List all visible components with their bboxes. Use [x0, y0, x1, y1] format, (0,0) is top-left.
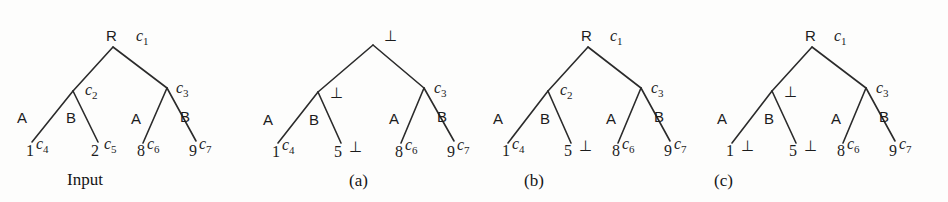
tree-a: ⊥ ⊥ c3 A B A B 1 c4 5 ⊥ 8 c6 9 c7 (a)	[263, 28, 470, 190]
leaf-3-cost: c6	[405, 136, 418, 156]
edge-root-left	[318, 45, 373, 92]
root-cost-label: c1	[610, 27, 623, 47]
left-internal-cost-label: c2	[560, 81, 573, 101]
leaf-1-cost: ⊥	[741, 138, 754, 154]
root-cost-label: c1	[834, 27, 847, 47]
root-cost-label: c1	[136, 27, 149, 47]
leaf-2-edge-label: B	[309, 111, 319, 128]
leaf-4-edge-label: B	[879, 108, 889, 125]
leaf-4-number: 9	[664, 142, 672, 159]
root-node-label: R	[106, 27, 117, 44]
right-internal-cost-label: c3	[651, 79, 664, 99]
leaf-2-number: 5	[789, 142, 797, 159]
leaf-3-edge-label: A	[606, 110, 616, 127]
right-internal-cost-label: c3	[876, 79, 889, 99]
tree-caption-a: (a)	[349, 171, 368, 190]
leaf-1-edge-label: A	[263, 111, 273, 128]
leaf-3-edge-label: A	[131, 110, 141, 127]
root-cost-label: ⊥	[384, 28, 397, 44]
edge-root-left	[548, 47, 588, 91]
leaf-3-cost: c6	[622, 135, 635, 155]
leaf-4-cost: c7	[457, 136, 470, 156]
edge-root-right	[812, 47, 866, 88]
leaf-3-number: 8	[837, 142, 845, 159]
leaf-1-number: 1	[726, 142, 734, 159]
leaf-1-number: 1	[502, 142, 510, 159]
edge-root-right	[373, 45, 424, 88]
left-internal-cost-label: ⊥	[784, 84, 797, 100]
left-internal-cost-label: ⊥	[330, 85, 343, 101]
leaf-1-cost: c4	[282, 136, 295, 156]
leaf-4-cost: c7	[899, 135, 912, 155]
leaf-4-edge-label: B	[654, 108, 664, 125]
leaf-2-cost: ⊥	[579, 138, 592, 154]
right-internal-cost-label: c3	[434, 79, 447, 99]
leaf-2-number: 5	[334, 143, 342, 160]
tree-caption-c: (c)	[714, 171, 733, 190]
leaf-4-number: 9	[189, 142, 197, 159]
leaf-2-edge-label: B	[66, 109, 76, 126]
leaf-2-cost: ⊥	[804, 138, 817, 154]
root-node-label: R	[581, 27, 592, 44]
tree-b: R c1 c2 c3 A B A B 1 c4 5 ⊥ 8 c6 9 c7 (b…	[493, 27, 687, 190]
leaf-1-edge-label: A	[493, 110, 503, 127]
leaf-1-edge-label: A	[717, 110, 727, 127]
leaf-2-number: 2	[91, 142, 99, 159]
leaf-1-number: 1	[26, 142, 34, 159]
leaf-4-number: 9	[889, 142, 897, 159]
leaf-3-edge-label: A	[389, 110, 399, 127]
leaf-1-edge-label: A	[17, 109, 27, 126]
leaf-2-edge-label: B	[764, 110, 774, 127]
tree-input: R c1 c2 c3 A B A B 1 c4 2 c5 8 c6 9 c7 I…	[17, 27, 212, 189]
edge-root-right	[113, 47, 167, 88]
tree-caption-input: Input	[67, 170, 103, 189]
right-internal-cost-label: c3	[176, 79, 189, 99]
edge-root-right	[588, 47, 641, 88]
left-internal-cost-label: c2	[85, 81, 98, 101]
leaf-2-number: 5	[564, 142, 572, 159]
leaf-1-number: 1	[272, 143, 280, 160]
leaf-1-cost: c4	[36, 135, 49, 155]
leaf-3-cost: c6	[847, 135, 860, 155]
leaf-3-edge-label: A	[831, 110, 841, 127]
edge-right-leaf1	[401, 88, 424, 143]
tree-c: R c1 ⊥ c3 A B A B 1 ⊥ 5 ⊥ 8 c6 9 c7 (c)	[714, 27, 912, 190]
leaf-4-number: 9	[447, 143, 455, 160]
root-node-label: R	[805, 27, 816, 44]
leaf-3-number: 8	[395, 143, 403, 160]
tree-caption-b: (b)	[524, 171, 544, 190]
leaf-2-cost: c5	[104, 135, 117, 155]
leaf-2-cost: ⊥	[349, 139, 362, 155]
leaf-2-edge-label: B	[540, 110, 550, 127]
leaf-4-cost: c7	[199, 135, 212, 155]
leaf-3-number: 8	[137, 142, 145, 159]
figure-panel: R c1 c2 c3 A B A B 1 c4 2 c5 8 c6 9 c7 I…	[0, 0, 948, 202]
tree-diagram-svg: R c1 c2 c3 A B A B 1 c4 2 c5 8 c6 9 c7 I…	[0, 0, 948, 202]
leaf-4-edge-label: B	[180, 108, 190, 125]
leaf-1-cost: c4	[512, 135, 525, 155]
leaf-3-number: 8	[612, 142, 620, 159]
leaf-4-cost: c7	[674, 135, 687, 155]
leaf-3-cost: c6	[147, 135, 160, 155]
leaf-4-edge-label: B	[437, 108, 447, 125]
edge-root-left	[73, 47, 113, 91]
